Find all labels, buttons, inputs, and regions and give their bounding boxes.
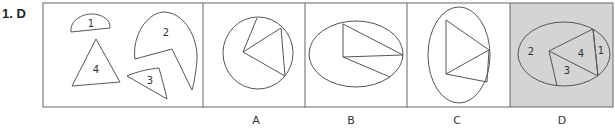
piece-label-1: 1: [88, 18, 94, 29]
d-piece-label: 4: [578, 48, 584, 59]
puzzle-figure: 1 4 2 3 2 4 1 3: [0, 0, 615, 131]
d-piece-label: 3: [564, 65, 570, 76]
d-piece-label: 2: [528, 46, 534, 57]
piece-2: [135, 12, 197, 90]
piece-label-3: 3: [147, 75, 153, 86]
option-a-figure: [223, 17, 293, 89]
option-label-a[interactable]: A: [236, 114, 276, 127]
option-label-d[interactable]: D: [542, 114, 582, 127]
option-c-figure: [428, 7, 490, 103]
option-label-b[interactable]: B: [331, 114, 371, 127]
option-label-c[interactable]: C: [437, 114, 477, 127]
d-piece-label: 1: [598, 45, 604, 56]
option-b-figure: [309, 21, 403, 87]
piece-label-4: 4: [93, 64, 99, 75]
piece-label-2: 2: [163, 27, 169, 38]
piece-4: [72, 39, 120, 86]
